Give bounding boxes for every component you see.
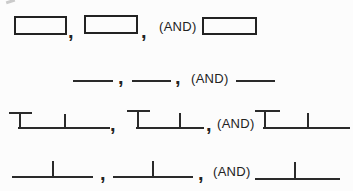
figure-canvas: , , (AND) , , (AND) , , (AND) — [0, 0, 353, 191]
comma-separator: , — [141, 21, 147, 41]
tee-cap — [255, 110, 280, 112]
mid-tick — [52, 161, 54, 178]
comma-separator: , — [100, 163, 106, 183]
cropped-ink-artifact — [6, 0, 15, 4]
comma-separator: , — [206, 114, 212, 134]
tee-mid-tick — [307, 113, 309, 129]
and-label: (AND) — [191, 72, 229, 85]
rectangle-slot-2 — [84, 15, 138, 34]
tee-mid-tick — [179, 113, 181, 129]
comma-separator: , — [175, 67, 181, 87]
blank-line-2 — [132, 80, 171, 82]
and-label: (AND) — [159, 20, 197, 33]
and-label: (AND) — [217, 117, 255, 130]
tee-mid-tick — [64, 114, 66, 129]
comma-separator: , — [110, 114, 116, 134]
comma-separator: , — [118, 67, 124, 87]
mid-tick — [152, 161, 154, 178]
comma-separator: , — [68, 21, 74, 41]
tick-baseline — [255, 178, 340, 180]
and-label: (AND) — [213, 165, 251, 178]
rectangle-slot-3 — [202, 17, 257, 35]
rectangle-slot-1 — [14, 16, 67, 35]
mid-tick — [294, 162, 296, 180]
blank-line-1 — [73, 80, 113, 82]
blank-line-3 — [236, 80, 275, 82]
comma-separator: , — [198, 163, 204, 183]
tee-baseline — [136, 127, 204, 129]
